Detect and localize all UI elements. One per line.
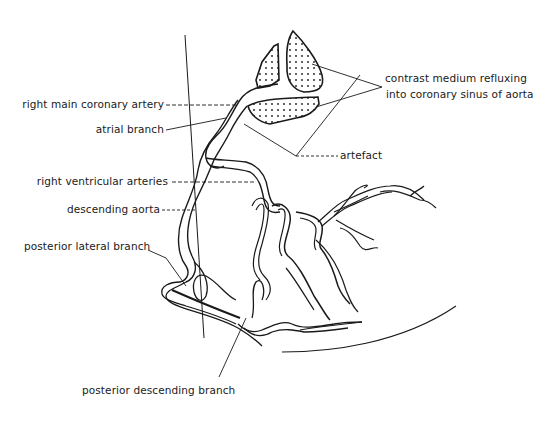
leader-artefact-1 — [244, 124, 296, 156]
label-contrast-line1: contrast medium refluxing — [385, 72, 527, 85]
label-posterior-lateral-branch: posterior lateral branch — [24, 240, 150, 253]
label-posterior-descending-branch: posterior descending branch — [82, 384, 235, 397]
label-artefact: artefact — [340, 149, 382, 162]
label-atrial-branch: atrial branch — [60, 123, 164, 136]
label-descending-aorta: descending aorta — [40, 203, 160, 216]
posterior-lateral-branch — [162, 262, 262, 346]
contrast-shapes — [248, 31, 323, 124]
leader-contrast-2 — [316, 87, 382, 107]
label-right-main-coronary-artery: right main coronary artery — [20, 98, 164, 111]
heart-border — [282, 306, 456, 352]
label-contrast-line2: into coronary sinus of aorta — [386, 88, 534, 101]
leader-posterior-descending — [219, 318, 246, 377]
leader-atrial-branch — [166, 118, 226, 130]
label-right-ventricular-arteries: right ventricular arteries — [20, 175, 168, 188]
